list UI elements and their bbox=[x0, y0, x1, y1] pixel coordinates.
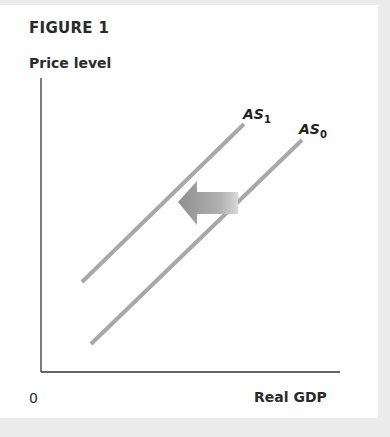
as1-label: AS1 bbox=[242, 106, 271, 125]
shift-arrow-icon bbox=[178, 181, 238, 225]
chart-plot: AS1 AS0 bbox=[0, 0, 390, 437]
as0-label: AS0 bbox=[298, 121, 327, 140]
